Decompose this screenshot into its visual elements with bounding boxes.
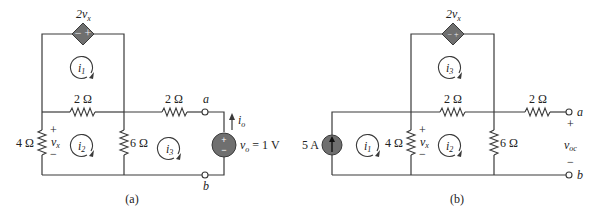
svg-text:+: + bbox=[221, 135, 226, 145]
resistor-label: 2 Ω bbox=[74, 92, 92, 106]
terminal-b-label: b bbox=[577, 168, 583, 182]
caption-a: (a) bbox=[125, 192, 138, 206]
voltage-source: + − bbox=[212, 133, 236, 157]
dependent-voltage-source: − + bbox=[442, 23, 464, 45]
circuit-a: − + 2vx 2 Ω 2 Ω a + − vo = 1 V io b bbox=[16, 7, 280, 206]
svg-text:+: + bbox=[567, 117, 574, 131]
mesh-current-i3: i3 bbox=[438, 56, 462, 79]
mesh-current-i1: i1 bbox=[70, 56, 94, 79]
resistor-label: 2 Ω bbox=[165, 92, 183, 106]
wire bbox=[94, 34, 124, 112]
dependent-source-label: 2vx bbox=[446, 7, 461, 23]
svg-text:−: − bbox=[419, 147, 426, 161]
resistor-label: 6 Ω bbox=[500, 136, 518, 150]
resistor-6ohm bbox=[490, 130, 498, 155]
svg-text:−: − bbox=[221, 145, 226, 155]
terminal-a bbox=[202, 109, 208, 115]
current-source-label: 5 A bbox=[302, 138, 319, 152]
resistor-2ohm bbox=[70, 108, 95, 116]
caption-b: (b) bbox=[450, 192, 464, 206]
wire bbox=[208, 112, 224, 132]
terminal-b-label: b bbox=[203, 179, 209, 193]
current-io-label: io bbox=[238, 113, 245, 129]
resistor-label: 2 Ω bbox=[529, 92, 547, 106]
circuit-b: − + 2vx 2 Ω 2 Ω a 5 A 4 Ω + vx − 6 Ω bbox=[302, 7, 583, 206]
svg-text:− +: − + bbox=[447, 30, 459, 39]
voc-label: voc bbox=[564, 138, 577, 153]
circuit-figure: − + 2vx 2 Ω 2 Ω a + − vo = 1 V io b bbox=[0, 0, 601, 216]
wire bbox=[411, 34, 442, 112]
svg-text:−: − bbox=[50, 147, 57, 161]
terminal-a-label: a bbox=[203, 92, 209, 106]
svg-text:i1: i1 bbox=[78, 61, 85, 76]
resistor-label: 4 Ω bbox=[16, 136, 34, 150]
wire bbox=[42, 34, 72, 112]
svg-text:i3: i3 bbox=[166, 142, 173, 157]
resistor-label: 6 Ω bbox=[130, 136, 148, 150]
terminal-a bbox=[566, 109, 572, 115]
svg-text:− +: − + bbox=[75, 26, 92, 40]
resistor-6ohm bbox=[120, 130, 128, 155]
dependent-voltage-source: − + bbox=[72, 23, 94, 45]
current-source-5A bbox=[322, 135, 342, 155]
mesh-current-i2: i2 bbox=[438, 134, 462, 157]
svg-text:i1: i1 bbox=[364, 139, 371, 154]
arrow-up-icon bbox=[229, 113, 235, 120]
mesh-current-i1: i1 bbox=[356, 134, 380, 157]
svg-text:i2: i2 bbox=[78, 139, 85, 154]
resistor-2ohm bbox=[525, 108, 550, 116]
terminal-a-label: a bbox=[577, 105, 583, 119]
wire bbox=[208, 157, 224, 175]
dependent-source-label: 2vx bbox=[76, 7, 91, 23]
resistor-2ohm bbox=[162, 108, 187, 116]
voltage-source-label: vo = 1 V bbox=[240, 138, 280, 154]
terminal-b bbox=[566, 172, 572, 178]
svg-text:i3: i3 bbox=[446, 61, 453, 76]
svg-text:−: − bbox=[567, 155, 574, 169]
resistor-2ohm bbox=[440, 108, 465, 116]
resistor-4ohm bbox=[407, 130, 415, 155]
resistor-4ohm bbox=[38, 130, 46, 155]
mesh-current-i2: i2 bbox=[70, 134, 94, 157]
wire bbox=[464, 34, 494, 112]
svg-text:i2: i2 bbox=[446, 139, 453, 154]
resistor-label: 4 Ω bbox=[385, 136, 403, 150]
resistor-label: 2 Ω bbox=[444, 92, 462, 106]
mesh-current-i3: i3 bbox=[157, 137, 181, 160]
terminal-b bbox=[202, 172, 208, 178]
